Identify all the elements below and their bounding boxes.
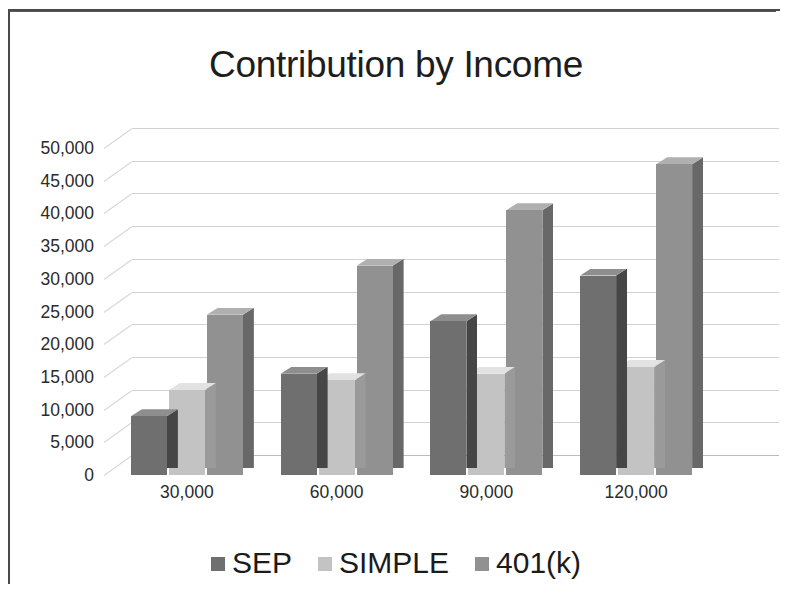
y-axis-tick-label: 5,000 <box>2 432 94 453</box>
legend-item-simple[interactable]: SIMPLE <box>318 548 449 578</box>
gridline <box>132 161 779 162</box>
axis-depth-tick <box>104 324 133 345</box>
x-axis-tick-label: 120,000 <box>604 482 667 503</box>
axis-depth-tick <box>104 193 133 214</box>
bar-sep-30000 <box>131 416 167 475</box>
y-axis-tick-label: 35,000 <box>2 236 94 257</box>
bar-front-face <box>357 266 393 475</box>
chart-legend: SEPSIMPLE401(k) <box>0 548 792 578</box>
bar-front-face <box>580 276 616 475</box>
axis-depth-tick <box>104 128 133 149</box>
axis-depth-tick <box>104 357 133 378</box>
plot-area: 50,00045,00040,00035,00030,00025,00020,0… <box>70 118 770 488</box>
legend-swatch-icon <box>318 557 332 571</box>
bar-side-face <box>542 203 553 468</box>
x-axis-tick-label: 90,000 <box>460 482 514 503</box>
bar-simple-120000 <box>618 367 654 475</box>
chart-title: Contribution by Income <box>0 44 792 86</box>
bar-front-face <box>656 164 692 475</box>
legend-label: SIMPLE <box>339 548 449 578</box>
bar-front-face <box>281 374 317 475</box>
bar-side-face <box>243 308 254 468</box>
bar-simple-60000 <box>319 380 355 475</box>
bar-simple-30000 <box>169 390 205 475</box>
bar-sep-60000 <box>281 374 317 475</box>
bar-simple-90000 <box>468 374 504 475</box>
y-axis-tick-label: 40,000 <box>2 203 94 224</box>
bar-front-face <box>506 210 542 475</box>
bar-front-face <box>169 390 205 475</box>
bar-top-face <box>506 203 553 210</box>
legend-label: 401(k) <box>496 548 581 578</box>
bar-front-face <box>131 416 167 475</box>
bar-front-face <box>430 321 466 475</box>
legend-item-sep[interactable]: SEP <box>211 548 292 578</box>
bar-front-face <box>468 374 504 475</box>
bar-front-face <box>618 367 654 475</box>
chart-figure: Contribution by Income 50,00045,00040,00… <box>0 0 792 593</box>
bar-top-face <box>580 269 627 276</box>
bar-sep-90000 <box>430 321 466 475</box>
legend-swatch-icon <box>211 557 225 571</box>
axis-depth-tick <box>104 390 133 411</box>
y-axis-tick-label: 30,000 <box>2 268 94 289</box>
y-axis-tick-label: 20,000 <box>2 334 94 355</box>
y-axis-tick-label: 25,000 <box>2 301 94 322</box>
x-axis-tick-label: 60,000 <box>310 482 364 503</box>
bar-top-face <box>207 308 254 315</box>
bar-401k-30000 <box>207 315 243 475</box>
bar-front-face <box>319 380 355 475</box>
bar-401k-60000 <box>357 266 393 475</box>
bar-401k-120000 <box>656 164 692 475</box>
legend-label: SEP <box>232 548 292 578</box>
bar-sep-120000 <box>580 276 616 475</box>
axis-depth-tick <box>104 422 133 443</box>
y-axis-tick-label: 15,000 <box>2 366 94 387</box>
y-axis-tick-label: 45,000 <box>2 170 94 191</box>
y-axis-tick-label: 0 <box>2 465 94 486</box>
axis-depth-tick <box>104 455 133 476</box>
axis-depth-tick <box>104 292 133 313</box>
y-axis-tick-label: 50,000 <box>2 138 94 159</box>
bar-top-face <box>430 314 477 321</box>
axis-depth-tick <box>104 161 133 182</box>
legend-swatch-icon <box>475 557 489 571</box>
axis-depth-tick <box>104 259 133 280</box>
bar-401k-90000 <box>506 210 542 475</box>
bar-top-face <box>281 367 328 374</box>
legend-item-401k[interactable]: 401(k) <box>475 548 581 578</box>
bar-front-face <box>207 315 243 475</box>
bar-side-face <box>393 259 404 468</box>
y-axis-tick-label: 10,000 <box>2 399 94 420</box>
x-axis-tick-label: 30,000 <box>160 482 214 503</box>
gridline <box>132 128 779 129</box>
axis-depth-tick <box>104 226 133 247</box>
